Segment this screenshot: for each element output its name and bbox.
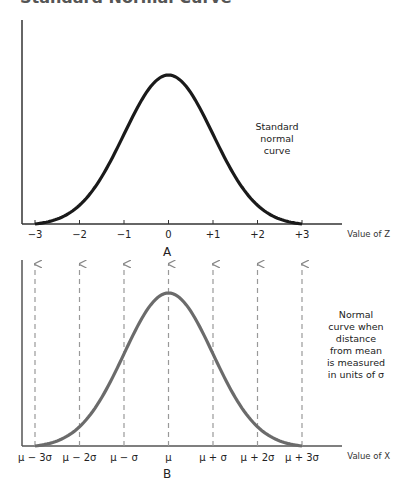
svg-text:Normal: Normal [339,309,373,320]
svg-text:from mean: from mean [330,345,382,356]
panel-label-a: A [163,245,172,259]
x-tick-label: +2 [250,229,265,240]
svg-text:curve: curve [264,145,291,156]
panel-a: −3−2−10+1+2+3 Value of Z A Standardnorma… [22,20,390,259]
panel-label-b: B [163,467,171,481]
x-tick-labels-b: μ − 3σμ − 2σμ − σμμ + σμ + 2σμ + 3σ [18,452,319,463]
standard-normal-curve [35,75,302,224]
x-tick-label: μ + 3σ [285,452,319,463]
panel-b: μ − 3σμ − 2σμ − σμμ + σμ + 2σμ + 3σ Valu… [18,260,390,481]
svg-text:Standard: Standard [255,121,298,132]
svg-text:curve when: curve when [328,321,383,332]
x-tick-label: −2 [72,229,87,240]
svg-text:normal: normal [260,133,293,144]
x-tick-label: 0 [165,229,171,240]
chart-canvas: −3−2−10+1+2+3 Value of Z A Standardnorma… [0,0,398,496]
x-tick-label: +1 [206,229,221,240]
x-tick-labels-a: −3−2−10+1+2+3 [28,229,310,240]
x-tick-label: +3 [295,229,310,240]
x-tick-label: μ − 3σ [18,452,52,463]
x-axis-title-b: Value of X [347,451,390,461]
x-tick-label: μ + 2σ [241,452,275,463]
annotation-b: Normalcurve whendistancefrom meanis meas… [327,309,385,380]
svg-text:is measured: is measured [327,357,385,368]
x-tick-label: μ − 2σ [63,452,97,463]
x-tick-label: μ [165,452,172,463]
x-tick-label: μ − σ [110,452,138,463]
x-tick-label: −3 [28,229,43,240]
svg-text:distance: distance [336,333,376,344]
annotation-a: Standardnormalcurve [255,121,298,156]
x-tick-label: μ + σ [199,452,227,463]
x-axis-title-a: Value of Z [347,229,390,239]
svg-text:in units of σ: in units of σ [328,369,384,380]
reference-arrows-b [35,264,302,446]
x-tick-label: −1 [117,229,132,240]
